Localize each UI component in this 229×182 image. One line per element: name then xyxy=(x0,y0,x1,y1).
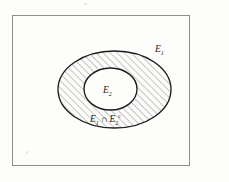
intersection-operator-symbol: ∩ xyxy=(101,114,108,124)
shaded-label-subscript-1: 1 xyxy=(96,119,99,126)
shaded-label-subscript-2: 2 xyxy=(115,119,118,126)
label-outer-set-subscript: 1 xyxy=(161,49,164,56)
set-diagram-figure: E1 E2 E1∩E2c xyxy=(0,0,229,182)
label-inner-set-subscript: 2 xyxy=(109,90,112,97)
diagram-canvas: E1 E2 E1∩E2c xyxy=(0,0,229,182)
